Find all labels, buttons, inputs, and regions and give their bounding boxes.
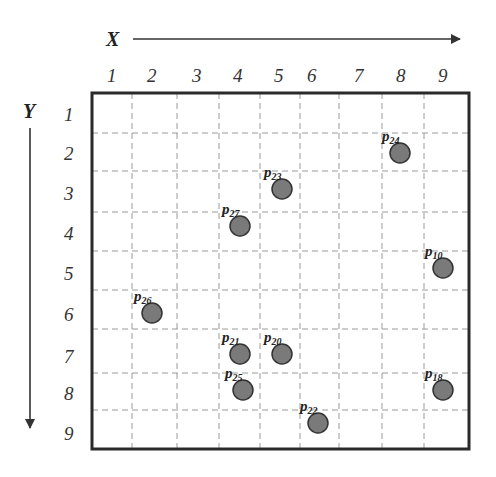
point-p21: p21: [220, 329, 250, 364]
point-label: p27: [220, 201, 241, 219]
point-label: p22: [298, 398, 318, 416]
point-marker: [390, 143, 410, 163]
point-marker: [230, 216, 250, 236]
point-label: p23: [262, 164, 282, 182]
x-tick: 3: [191, 65, 202, 86]
point-label: p10: [423, 243, 443, 261]
point-marker: [233, 380, 253, 400]
y-axis-title: Y: [23, 100, 37, 122]
y-tick: 2: [64, 143, 74, 164]
point-marker: [433, 258, 453, 278]
y-axis-ticks: 1 2 3 4 5 6 7 8 9: [63, 104, 75, 444]
y-tick: 3: [63, 183, 74, 204]
x-tick: 8: [396, 65, 406, 86]
y-tick: 5: [64, 263, 74, 284]
point-p27: p27: [220, 201, 250, 236]
point-label: p21: [220, 329, 240, 347]
point-p25: p25: [223, 365, 253, 400]
x-tick: 6: [307, 65, 317, 86]
y-tick: 6: [64, 304, 74, 325]
point-marker: [272, 344, 292, 364]
x-axis-ticks: 1 2 3 4 5 6 7 8 9: [107, 65, 448, 86]
x-axis-title: X: [105, 28, 120, 50]
x-tick: 9: [438, 65, 448, 86]
point-p18: p18: [423, 365, 453, 400]
grid-lines: [92, 93, 469, 449]
y-tick: 7: [64, 346, 75, 367]
points-layer: p24p23p27p10p26p21p20p25p18p22: [132, 128, 453, 433]
point-marker: [308, 413, 328, 433]
point-p10: p10: [423, 243, 453, 278]
point-marker: [142, 303, 162, 323]
point-marker: [272, 179, 292, 199]
point-p20: p20: [262, 329, 292, 364]
point-label: p20: [262, 329, 282, 347]
y-tick: 9: [64, 423, 74, 444]
x-tick: 1: [107, 65, 117, 86]
y-tick: 4: [64, 223, 74, 244]
point-label: p26: [132, 288, 152, 306]
point-p26: p26: [132, 288, 162, 323]
point-label: p24: [380, 128, 400, 146]
x-tick: 2: [147, 65, 157, 86]
point-marker: [433, 380, 453, 400]
grid-diagram: X Y 1 2 3 4 5 6 7 8 9 1 2 3 4 5 6 7 8 9: [0, 0, 496, 477]
point-p22: p22: [298, 398, 328, 433]
point-p23: p23: [262, 164, 292, 199]
x-tick: 5: [274, 65, 284, 86]
x-tick: 7: [354, 65, 365, 86]
grid-frame: [92, 93, 469, 449]
y-tick: 1: [64, 104, 74, 125]
point-marker: [230, 344, 250, 364]
x-tick: 4: [233, 65, 243, 86]
point-label: p18: [423, 365, 443, 383]
y-tick: 8: [64, 383, 74, 404]
point-label: p25: [223, 365, 243, 383]
